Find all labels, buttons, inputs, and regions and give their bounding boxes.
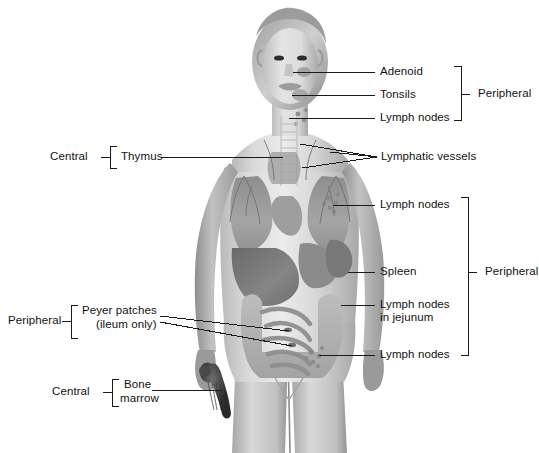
label-peyer-patches-line1: Peyer patches	[82, 304, 157, 317]
bracket-peripheral-trunk	[461, 197, 468, 355]
label-spleen: Spleen	[380, 265, 416, 278]
label-central-bone-marrow: Central	[52, 385, 90, 398]
body-figure	[195, 8, 384, 453]
right-eye	[297, 55, 307, 60]
left-eye	[274, 55, 284, 60]
bracket-peripheral-head	[454, 66, 461, 120]
label-thymus: Thymus	[121, 150, 163, 163]
label-lymph-nodes-jejunum-line2: in jejunum	[380, 311, 433, 324]
label-bone-marrow-line2: marrow	[120, 392, 159, 405]
label-peripheral-trunk: Peripheral	[485, 265, 538, 278]
label-peyer-patches-line2: (ileum only)	[96, 318, 157, 331]
bracket-peripheral-peyer	[71, 305, 78, 338]
label-peripheral-head: Peripheral	[478, 87, 531, 100]
label-tonsils: Tonsils	[380, 88, 416, 101]
lymphatic-system-figure: Adenoid Tonsils Lymph nodes Peripheral C…	[0, 0, 539, 453]
label-central-thymus: Central	[50, 150, 88, 163]
label-lymph-nodes-neck: Lymph nodes	[380, 111, 450, 124]
label-lymph-nodes-inguinal: Lymph nodes	[380, 348, 450, 361]
label-lymph-nodes-jejunum-line1: Lymph nodes	[380, 298, 450, 311]
label-adenoid: Adenoid	[380, 65, 423, 78]
label-lymph-nodes-axillary: Lymph nodes	[380, 198, 450, 211]
label-peripheral-peyer: Peripheral	[8, 314, 61, 327]
label-lymphatic-vessels: Lymphatic vessels	[381, 150, 476, 163]
label-bone-marrow-line1: Bone	[124, 378, 151, 391]
bracket-central-thymus	[110, 146, 117, 168]
bracket-central-bone-marrow	[112, 379, 119, 406]
